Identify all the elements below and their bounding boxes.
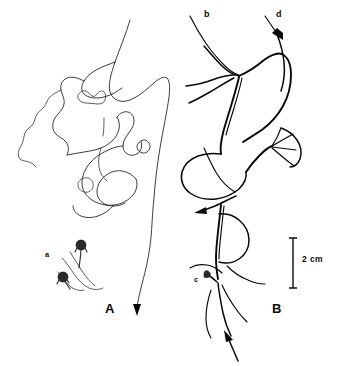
panel-b-terminal-strand-2	[222, 285, 247, 322]
panel-a-right-lobe	[117, 112, 142, 156]
figure-container: A B a b d c 2 cm	[0, 0, 337, 366]
polyp-upper-tentacle-right	[85, 248, 87, 252]
polyp-upper-head	[76, 240, 86, 250]
panel-b-node-c-mark	[204, 271, 210, 278]
panel-b-mid-node-main	[246, 146, 272, 172]
panel-a-upper-contour	[53, 77, 84, 155]
panel-b-bottom-arrow-strand	[229, 340, 238, 361]
polyp-lower-head	[58, 272, 68, 282]
panel-b-branch-b	[190, 16, 239, 75]
panel-a-arrowhead	[133, 304, 141, 316]
panel-label-b: B	[272, 301, 282, 316]
panel-a-lower-tail	[73, 205, 114, 218]
scale-bar	[289, 238, 297, 288]
panel-a-zigzag-left	[18, 90, 61, 167]
panel-b-branch-left-4	[189, 78, 234, 103]
panel-b-mid-left-lobe	[181, 153, 246, 199]
panel-b-branch-left-2	[204, 46, 239, 76]
polyp-lower-tentacle-left	[57, 280, 59, 284]
panel-label-a: A	[105, 301, 115, 316]
panel-a-small-knot	[78, 178, 93, 193]
panel-a-outer-loop-right	[82, 62, 122, 98]
panel-b-lower-loop	[219, 214, 249, 263]
panel-b-mid-node-ray-2	[272, 147, 296, 150]
annotation-label-a: a	[45, 250, 49, 259]
panel-b-bottom-trailing	[206, 290, 211, 338]
panel-b-traces	[181, 16, 301, 361]
panel-a-traces	[18, 20, 169, 316]
panel-b-lower-cross-right	[227, 266, 265, 284]
polyp-upper-stalk	[79, 248, 81, 268]
scale-bar-label: 2 cm	[302, 254, 323, 264]
panel-b-upper-right-arc	[277, 34, 284, 91]
panel-a-polyps	[57, 240, 103, 290]
panel-a-hook-loop	[137, 140, 150, 153]
panel-b-right-hook	[281, 128, 301, 167]
annotation-label-c: c	[194, 275, 198, 284]
polyp-lower-tentacle-right	[67, 280, 69, 283]
panel-a-lower-inner-loop	[97, 171, 136, 206]
annotation-label-b: b	[204, 9, 210, 19]
panel-b-descending-bundle	[221, 77, 239, 154]
panel-b-mid-node-ray-3	[272, 148, 294, 166]
panel-b-descending-strand-2	[226, 78, 242, 135]
figure-drawing	[0, 0, 337, 366]
polyp-upper-tentacle-left	[75, 248, 77, 252]
annotation-label-d: d	[276, 9, 282, 19]
panel-a-crossing-stroke	[103, 118, 104, 136]
panel-b-lobe-cross-strand	[204, 148, 235, 192]
panel-b-arrowhead-mid	[194, 207, 207, 214]
panel-b-branch-left-3	[186, 75, 235, 86]
panel-a-main-filament	[109, 20, 169, 306]
panel-a-middle-contour	[67, 117, 119, 155]
polyp-filament-2	[70, 252, 95, 286]
